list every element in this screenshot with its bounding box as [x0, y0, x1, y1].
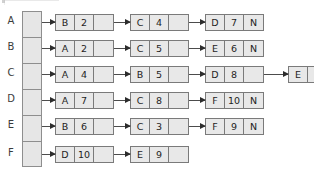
array-cell-a [22, 11, 42, 37]
list-node: C4 [130, 14, 189, 31]
clipped-top-marker [2, 0, 5, 3]
chain-row-b: A2C5E6N [42, 40, 264, 57]
node-key-cell: C [131, 41, 150, 56]
array-cell-b [22, 37, 42, 63]
node-pointer-cell [94, 41, 113, 56]
list-node: C5 [130, 40, 189, 57]
chain-row-a: B2C4D7N [42, 14, 264, 31]
list-node: D10 [55, 146, 114, 163]
node-weight-cell: 3 [308, 67, 314, 82]
node-weight-cell: 7 [225, 15, 244, 30]
node-key-cell: A [56, 41, 75, 56]
link-arrow [189, 48, 205, 49]
node-key-cell: D [206, 15, 225, 30]
array-cell-f [22, 141, 42, 167]
head-pointer-arrow-c [42, 74, 55, 75]
node-weight-cell: 6 [75, 119, 94, 134]
link-arrow [264, 74, 288, 75]
list-node: E9 [130, 146, 189, 163]
node-key-cell: C [131, 15, 150, 30]
node-key-cell: A [56, 67, 75, 82]
node-pointer-cell [94, 147, 113, 162]
link-arrow [189, 22, 205, 23]
node-pointer-cell [169, 119, 188, 134]
node-pointer-cell [94, 67, 113, 82]
node-weight-cell: 3 [150, 119, 169, 134]
vertex-array [22, 11, 42, 171]
node-key-cell: C [131, 119, 150, 134]
node-key-cell: D [206, 67, 225, 82]
node-key-cell: F [206, 93, 225, 108]
node-pointer-cell [169, 41, 188, 56]
head-pointer-arrow-b [42, 48, 55, 49]
node-weight-cell: 7 [75, 93, 94, 108]
node-weight-cell: 4 [150, 15, 169, 30]
row-label-d: D [2, 93, 20, 105]
list-node: D8 [205, 66, 264, 83]
node-pointer-cell [169, 93, 188, 108]
head-pointer-arrow-f [42, 154, 55, 155]
node-weight-cell: 9 [150, 147, 169, 162]
node-weight-cell: 10 [225, 93, 244, 108]
head-pointer-arrow-a [42, 22, 55, 23]
node-key-cell: B [56, 119, 75, 134]
row-label-f: F [2, 147, 20, 159]
node-weight-cell: 2 [75, 41, 94, 56]
node-nil-cell: N [244, 15, 263, 30]
list-node: A2 [55, 40, 114, 57]
chain-row-f: D10E9 [42, 146, 189, 163]
node-key-cell: E [206, 41, 225, 56]
row-label-c: C [2, 67, 20, 79]
node-pointer-cell [169, 147, 188, 162]
node-key-cell: B [56, 15, 75, 30]
list-node: A4 [55, 66, 114, 83]
clipped-top-artifact [4, 0, 59, 5]
array-cell-c [22, 63, 42, 89]
node-key-cell: C [131, 93, 150, 108]
node-key-cell: A [56, 93, 75, 108]
list-node: F9N [205, 118, 264, 135]
list-node: B5 [130, 66, 189, 83]
row-label-a: A [2, 15, 20, 27]
list-node: B6 [55, 118, 114, 135]
link-arrow [189, 74, 205, 75]
adjacency-list-diagram: ABCDEF B2C4D7NA2C5E6NA4B5D8E3NA7C8F10NB6… [0, 0, 314, 178]
list-node: F10N [205, 92, 264, 109]
link-arrow [114, 100, 130, 101]
node-pointer-cell [94, 15, 113, 30]
node-key-cell: E [289, 67, 308, 82]
node-pointer-cell [169, 67, 188, 82]
node-weight-cell: 10 [75, 147, 94, 162]
node-nil-cell: N [244, 93, 263, 108]
node-weight-cell: 5 [150, 67, 169, 82]
node-pointer-cell [94, 119, 113, 134]
node-weight-cell: 8 [225, 67, 244, 82]
node-weight-cell: 6 [225, 41, 244, 56]
node-weight-cell: 8 [150, 93, 169, 108]
chain-row-d: A7C8F10N [42, 92, 264, 109]
link-arrow [114, 154, 130, 155]
node-nil-cell: N [244, 119, 263, 134]
chain-row-c: A4B5D8E3N [42, 66, 314, 83]
head-pointer-arrow-e [42, 126, 55, 127]
row-label-e: E [2, 119, 20, 131]
node-pointer-cell [244, 67, 263, 82]
node-weight-cell: 4 [75, 67, 94, 82]
node-key-cell: B [131, 67, 150, 82]
array-cell-d [22, 89, 42, 115]
node-weight-cell: 5 [150, 41, 169, 56]
node-weight-cell: 2 [75, 15, 94, 30]
list-node: E6N [205, 40, 264, 57]
list-node: A7 [55, 92, 114, 109]
head-pointer-arrow-d [42, 100, 55, 101]
chain-row-e: B6C3F9N [42, 118, 264, 135]
node-nil-cell: N [244, 41, 263, 56]
link-arrow [114, 48, 130, 49]
row-label-b: B [2, 41, 20, 53]
node-weight-cell: 9 [225, 119, 244, 134]
link-arrow [189, 100, 205, 101]
list-node: B2 [55, 14, 114, 31]
link-arrow [114, 22, 130, 23]
array-cell-e [22, 115, 42, 141]
node-pointer-cell [169, 15, 188, 30]
